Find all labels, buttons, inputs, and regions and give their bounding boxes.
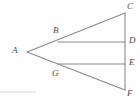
vertex-label-A: A <box>12 46 18 55</box>
segment-AC <box>27 13 125 52</box>
vertex-label-D: D <box>129 36 136 45</box>
geometry-figure: A B C D E F G <box>0 0 140 98</box>
parallel-segments <box>58 42 125 64</box>
triangle-outline <box>27 13 125 90</box>
vertex-label-G: G <box>52 69 59 78</box>
vertex-label-E: E <box>129 58 135 67</box>
segment-AF <box>27 52 125 90</box>
vertex-label-B: B <box>53 26 59 35</box>
vertex-label-C: C <box>127 2 133 11</box>
geometry-canvas <box>0 0 140 98</box>
vertex-label-F: F <box>127 89 133 98</box>
